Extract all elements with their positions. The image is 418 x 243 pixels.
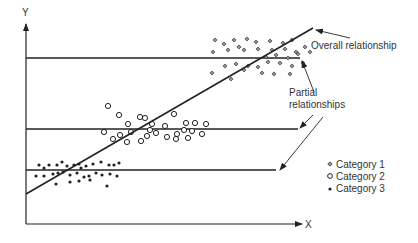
category-2-point: [189, 128, 194, 133]
category-3-point: [37, 163, 40, 166]
category-1-point: [254, 40, 259, 45]
category-2-point: [153, 130, 158, 135]
open-circle-icon: [328, 174, 333, 179]
overall-arrow: [316, 30, 350, 38]
category-1-point: [266, 60, 271, 65]
category-3-point: [105, 184, 108, 187]
category-3-point: [65, 164, 68, 167]
category-2-point: [144, 133, 149, 138]
category-3-point: [79, 166, 82, 169]
legend-item-category-2: Category 2: [328, 171, 386, 182]
diamond-cross-icon: [327, 161, 332, 166]
category-2-point: [174, 131, 179, 136]
category-2-point: [171, 111, 176, 116]
y-axis-label: Y: [22, 7, 29, 18]
category-2-point: [142, 115, 147, 120]
category-2-point: [162, 123, 167, 128]
category-3-point: [99, 160, 102, 163]
category-3-point: [117, 161, 120, 164]
category-3-point: [94, 171, 97, 174]
legend-item-category-3: Category 3: [328, 183, 385, 194]
category-3-point: [84, 164, 87, 167]
category-1-point: [222, 42, 227, 47]
category-1-point: [229, 77, 234, 82]
category-3-point: [51, 172, 54, 175]
category-3-point: [42, 166, 45, 169]
legend-item-category-1: Category 1: [327, 159, 385, 170]
category-3-point: [60, 160, 63, 163]
category-1-point: [226, 48, 231, 53]
category-3-point: [100, 173, 103, 176]
category-1-point: [268, 39, 273, 44]
category-1-point: [223, 64, 228, 69]
legend-label: Category 2: [336, 171, 385, 182]
category-2-point: [137, 114, 142, 119]
category-1-point: [286, 56, 291, 61]
category-1-point: [210, 71, 215, 76]
category-1-point: [288, 72, 293, 77]
filled-dot-icon: [328, 187, 331, 190]
partial-vs-overall-diagram: Y X Overall relationship Partial relatio…: [0, 0, 418, 243]
category-3-point: [47, 163, 50, 166]
category-2-point: [173, 136, 178, 141]
category-1-point: [260, 71, 265, 76]
category-2-point: [125, 121, 130, 126]
category-1-point: [232, 38, 237, 43]
category-2-point: [199, 131, 204, 136]
partial-arrow-bottom: [280, 117, 323, 170]
category-2-point: [117, 132, 122, 137]
category-3-point: [82, 175, 85, 178]
category-3-point: [68, 173, 71, 176]
category-2-point: [192, 120, 197, 125]
category-2-point: [164, 134, 169, 139]
category-1-point: [283, 47, 288, 52]
category-1-point: [211, 50, 216, 55]
category-2-point: [110, 136, 115, 141]
category-1-point: [237, 45, 242, 50]
category-3-point: [42, 174, 45, 177]
category-2-point: [138, 138, 143, 143]
category-2-point: [147, 127, 152, 132]
category-1-point: [274, 53, 279, 58]
category-3-point: [75, 171, 78, 174]
category-2-point: [185, 135, 190, 140]
category-1-point: [256, 47, 261, 52]
legend-label: Category 3: [336, 183, 385, 194]
category-3-point: [54, 182, 57, 185]
category-3-point: [34, 174, 37, 177]
category-2-point: [101, 129, 106, 134]
overall-relationship-label: Overall relationship: [311, 40, 397, 51]
category-3-point: [112, 163, 115, 166]
partial-relationships-label-line1: Partial: [289, 87, 317, 98]
category-2-point: [124, 139, 129, 144]
category-2-point: [203, 121, 208, 126]
category-1-point: [242, 48, 247, 53]
category-3-point: [107, 163, 110, 166]
category-1-point: [213, 38, 218, 43]
category-1-point: [278, 61, 283, 66]
category-1-point: [272, 72, 277, 77]
category-1-point: [245, 37, 250, 42]
category-2-point: [105, 103, 110, 108]
category-2-point: [181, 127, 186, 132]
category-3-point: [68, 180, 71, 183]
category-2-point: [183, 120, 188, 125]
x-axis-label: X: [305, 219, 312, 230]
category-3-point: [91, 162, 94, 165]
category-3-point: [115, 174, 118, 177]
category-3-point: [77, 179, 80, 182]
category-3-point: [87, 174, 90, 177]
category-1-point: [303, 45, 308, 50]
legend-label: Category 1: [336, 159, 385, 170]
overall-relationship-line: [26, 28, 313, 194]
legend: Category 1 Category 2 Category 3: [327, 159, 385, 194]
partial-relationships-label-line2: relationships: [289, 99, 345, 110]
category-3-point: [88, 178, 91, 181]
category-1-point: [234, 62, 239, 67]
category-1-point: [290, 64, 295, 69]
partial-arrow-middle: [300, 115, 313, 128]
category-3-point: [108, 172, 111, 175]
category-2-point: [116, 112, 121, 117]
category-3-point: [55, 163, 58, 166]
category-1-point: [256, 65, 261, 70]
